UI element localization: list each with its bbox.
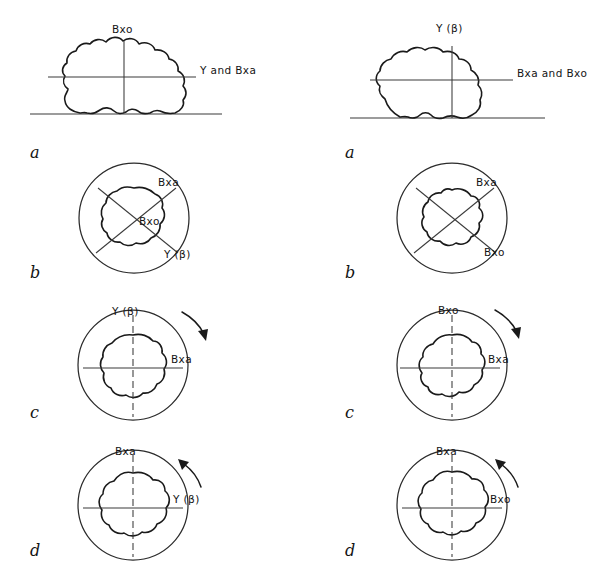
rotation-arrow-head-right-c	[511, 327, 521, 339]
panel-letter-left-d: d	[30, 541, 40, 560]
label-left-a-vertical: Bxo	[112, 23, 133, 35]
label-left-b-bxo: Bxo	[139, 215, 160, 227]
rotation-arrow-left-d	[178, 459, 201, 487]
panel-left-b: Bxa Bxo Y (β) b	[30, 163, 191, 282]
rotation-arrow-right-c	[495, 310, 521, 339]
panel-letter-left-a: a	[30, 143, 40, 162]
label-left-d-horizontal: Y (β)	[172, 493, 200, 505]
panel-right-c: Bxo Bxa c	[345, 304, 521, 422]
panel-letter-right-c: c	[345, 403, 354, 422]
particle-blob-right-d	[418, 471, 488, 535]
panel-left-d: Bxa Y (β) d	[30, 445, 201, 560]
panel-letter-right-d: d	[345, 541, 355, 560]
rotation-arrow-right-d	[495, 459, 518, 487]
figure-root: Bxo Y and Bxa a Y (β) Bxa and Bxo a Bxa …	[0, 0, 605, 578]
rotation-arrow-left-c	[182, 312, 208, 341]
label-right-d-vertical: Bxa	[436, 445, 457, 457]
label-right-c-horizontal: Bxa	[488, 353, 509, 365]
rotation-arrow-head-left-c	[198, 329, 208, 341]
panel-letter-left-b: b	[30, 263, 40, 282]
particle-blob-right-a	[376, 48, 481, 119]
label-left-b-bxa: Bxa	[158, 176, 179, 188]
rotation-arrow-head-right-d	[495, 459, 506, 470]
label-left-c-vertical: Y (β)	[111, 305, 139, 317]
rotation-arrow-head-left-d	[178, 459, 189, 470]
rotation-arrow-curve-right-d	[501, 464, 518, 487]
panel-letter-left-c: c	[30, 403, 39, 422]
label-right-d-horizontal: Bxo	[490, 493, 511, 505]
label-right-b-bxa: Bxa	[476, 176, 497, 188]
label-right-c-vertical: Bxo	[438, 304, 459, 316]
panel-left-a: Bxo Y and Bxa a	[30, 23, 256, 162]
panel-letter-right-b: b	[345, 263, 355, 282]
panel-right-b: Bxa Bxo b	[345, 163, 507, 282]
label-left-a-horizontal: Y and Bxa	[199, 64, 256, 76]
label-right-a-horizontal: Bxa and Bxo	[517, 67, 587, 79]
label-left-d-vertical: Bxa	[115, 445, 136, 457]
panel-left-c: Y (β) Bxa c	[30, 305, 208, 422]
particle-blob-left-d	[99, 472, 169, 536]
label-right-b-bxo: Bxo	[484, 246, 505, 258]
panel-right-d: Bxa Bxo d	[345, 445, 518, 560]
figure-canvas: Bxo Y and Bxa a Y (β) Bxa and Bxo a Bxa …	[0, 0, 605, 578]
panel-right-a: Y (β) Bxa and Bxo a	[345, 22, 587, 162]
label-left-b-y: Y (β)	[163, 248, 191, 260]
rotation-arrow-curve-left-d	[184, 464, 201, 487]
panel-letter-right-a: a	[345, 143, 355, 162]
label-right-a-vertical: Y (β)	[435, 22, 463, 34]
label-left-c-horizontal: Bxa	[171, 353, 192, 365]
